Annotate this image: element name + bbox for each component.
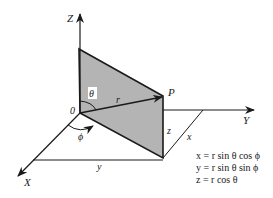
- shaded-plane: [79, 49, 163, 158]
- x-component-label: x: [186, 131, 192, 142]
- equation-z: z = r cos θ: [196, 174, 238, 185]
- equation-y: y = r sin θ sin ϕ: [196, 162, 258, 173]
- origin-label: 0: [70, 105, 75, 116]
- r-label: r: [116, 94, 120, 105]
- y-component-label: y: [96, 161, 102, 172]
- y-axis-label: Y: [243, 114, 251, 126]
- x-axis: [18, 113, 80, 176]
- z-component-label: z: [166, 125, 171, 136]
- x-axis-label: X: [23, 176, 32, 188]
- equation-x: x = r sin θ cos ϕ: [196, 150, 260, 161]
- z-axis-label: Z: [67, 12, 74, 24]
- theta-label: θ: [89, 88, 94, 99]
- phi-arc: [68, 125, 93, 130]
- p-label: P: [167, 86, 175, 98]
- phi-label: ϕ: [78, 131, 83, 142]
- spherical-coordinates-diagram: Z Y X 0 θ r P ϕ z x y x = r sin θ cos ϕ …: [0, 0, 273, 198]
